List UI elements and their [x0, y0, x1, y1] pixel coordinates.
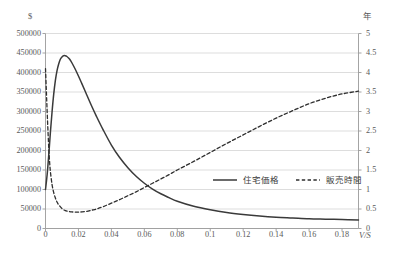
x-axis-tick-2: 0.04: [104, 231, 118, 239]
x-axis-tick-6: 0.12: [236, 231, 250, 239]
x-axis-tick-4: 0.08: [170, 231, 184, 239]
chart-container: $ 年 V/S 05000010000015000020000025000030…: [0, 0, 397, 258]
x-axis-ticklabels: 00.020.040.060.080.10.120.140.160.18: [0, 0, 397, 258]
x-axis-tick-7: 0.14: [269, 231, 283, 239]
x-axis-tick-9: 0.18: [335, 231, 349, 239]
legend-label-selling-time: 販売時間: [326, 176, 362, 185]
x-axis-tick-0: 0: [43, 231, 47, 239]
x-axis-tick-1: 0.02: [71, 231, 85, 239]
legend-label-housing-price: 住宅価格: [243, 176, 279, 185]
x-axis-tick-3: 0.06: [137, 231, 151, 239]
x-axis-tick-5: 0.1: [205, 231, 215, 239]
x-axis-tick-8: 0.16: [302, 231, 316, 239]
